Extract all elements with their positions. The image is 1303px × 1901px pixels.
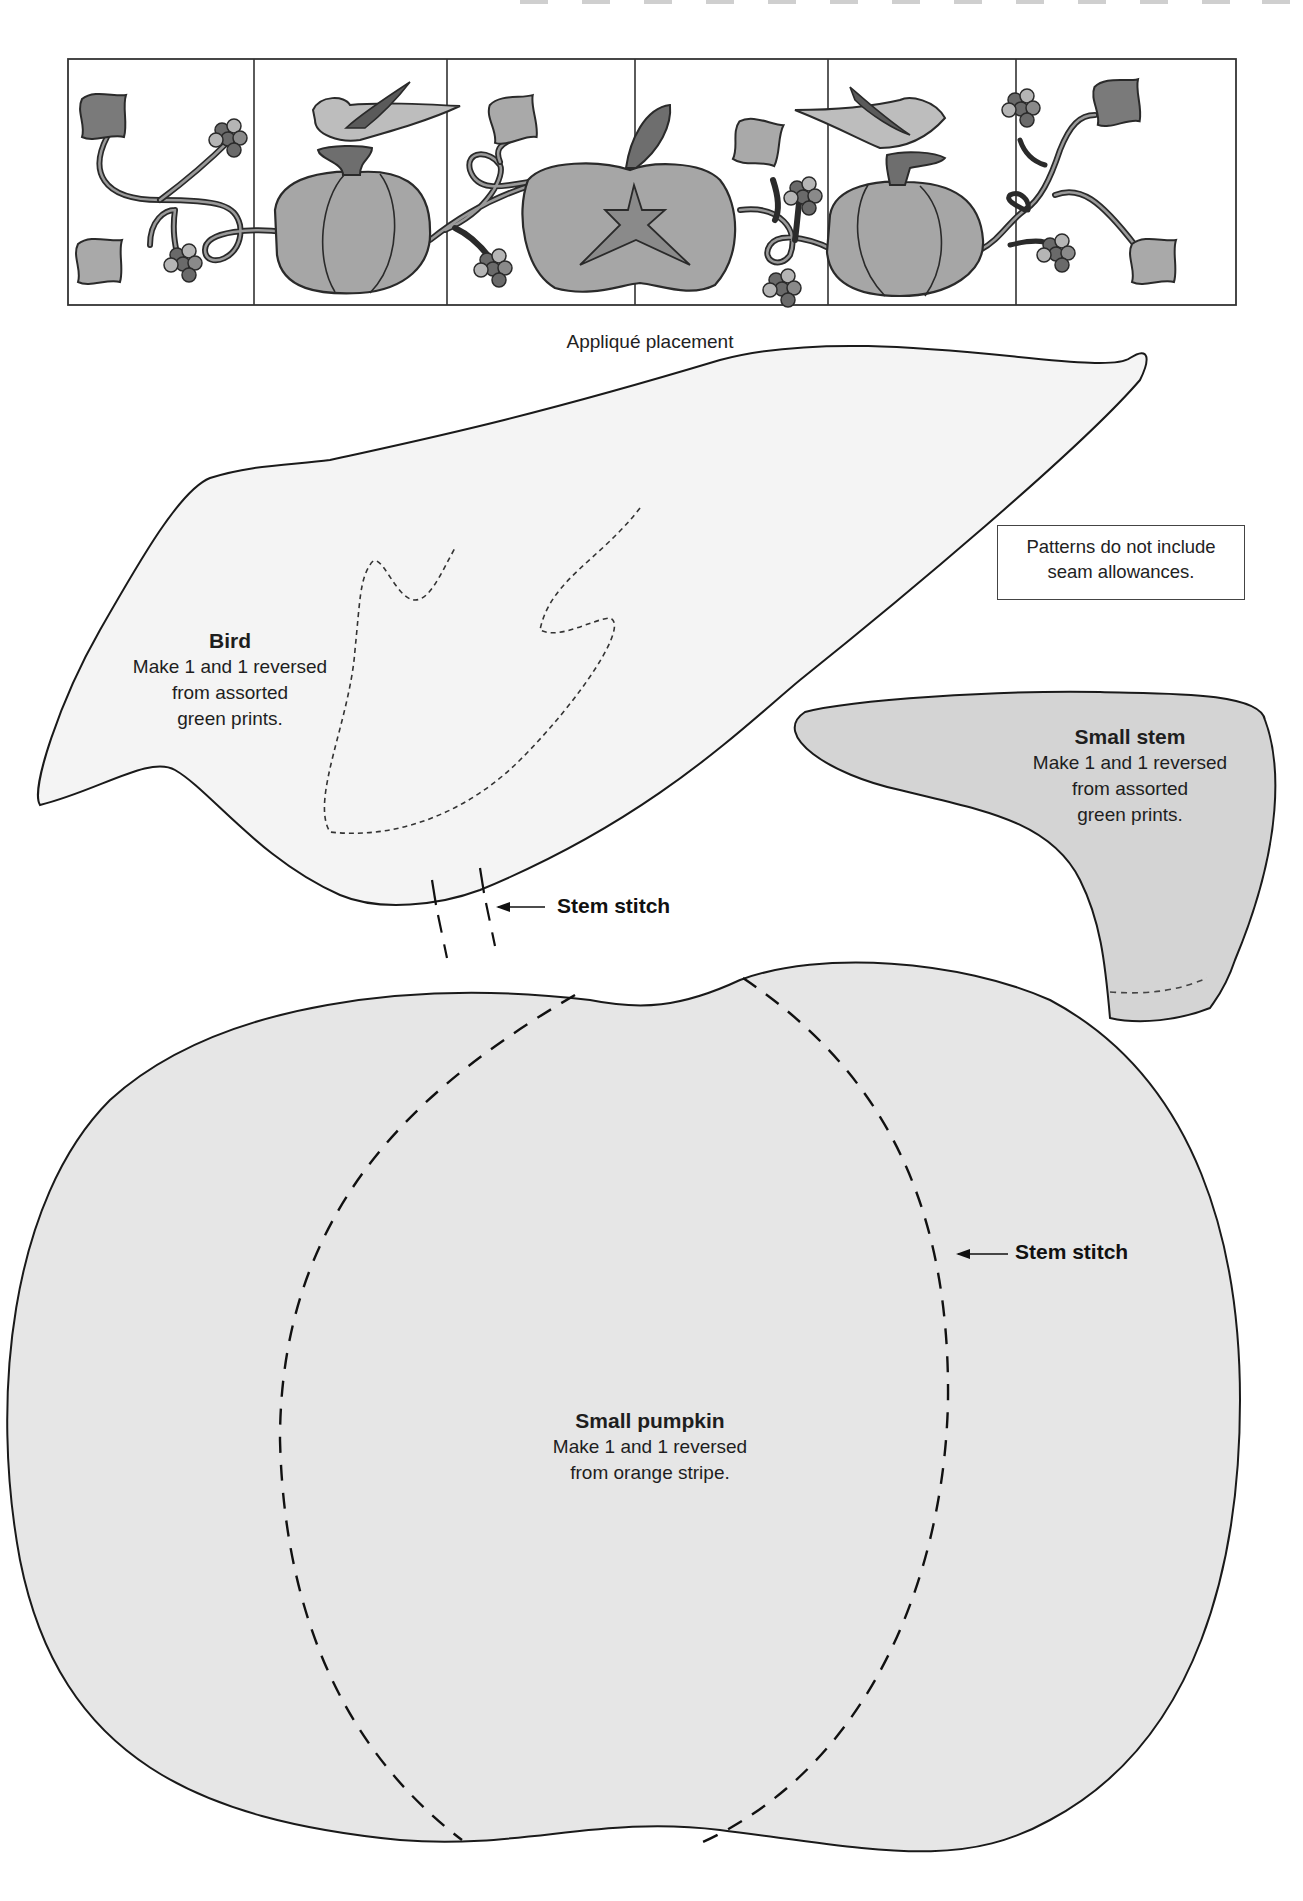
pumpkin-stem-stitch-callout: Stem stitch bbox=[1015, 1240, 1128, 1264]
small-stem-instruction-2: from assorted bbox=[1005, 776, 1255, 802]
bird-instruction-1: Make 1 and 1 reversed bbox=[100, 654, 360, 680]
bird-stem-stitch-callout: Stem stitch bbox=[557, 894, 670, 918]
small-stem-label: Small stem Make 1 and 1 reversed from as… bbox=[1005, 724, 1255, 828]
bird-title: Bird bbox=[100, 628, 360, 654]
small-pumpkin-title: Small pumpkin bbox=[510, 1408, 790, 1434]
applique-placement-caption: Appliqué placement bbox=[500, 331, 800, 353]
small-pumpkin-label: Small pumpkin Make 1 and 1 reversed from… bbox=[510, 1408, 790, 1486]
applique-placement-diagram bbox=[68, 59, 1236, 307]
note-line-1: Patterns do not include bbox=[1008, 534, 1234, 559]
small-stem-title: Small stem bbox=[1005, 724, 1255, 750]
small-pumpkin-instruction-1: Make 1 and 1 reversed bbox=[510, 1434, 790, 1460]
small-pumpkin-instruction-2: from orange stripe. bbox=[510, 1460, 790, 1486]
small-stem-instruction-3: green prints. bbox=[1005, 802, 1255, 828]
bird-instruction-3: green prints. bbox=[100, 706, 360, 732]
pattern-artwork bbox=[0, 0, 1303, 1901]
bird-label: Bird Make 1 and 1 reversed from assorted… bbox=[100, 628, 360, 732]
seam-allowance-note: Patterns do not include seam allowances. bbox=[997, 525, 1245, 600]
small-stem-instruction-1: Make 1 and 1 reversed bbox=[1005, 750, 1255, 776]
note-line-2: seam allowances. bbox=[1008, 559, 1234, 584]
small-pumpkin-pattern-shape bbox=[7, 963, 1240, 1852]
bird-instruction-2: from assorted bbox=[100, 680, 360, 706]
